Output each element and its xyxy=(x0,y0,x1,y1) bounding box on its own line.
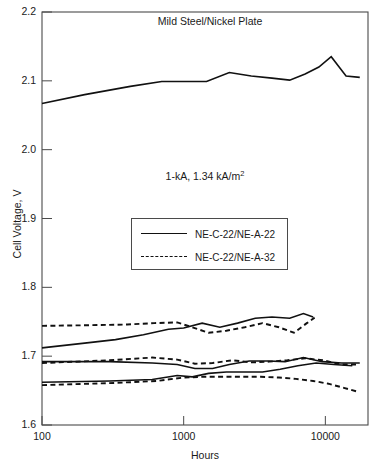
x-tick-label: 10000 xyxy=(295,430,355,442)
y-tick-label: 2.0 xyxy=(2,143,36,155)
legend-line-solid-icon xyxy=(141,229,187,239)
series-top-cell-voltage xyxy=(42,57,360,104)
legend-item-0: NE-C-22/NE-A-22 xyxy=(132,223,289,245)
chart-title: Mild Steel/Nickel Plate xyxy=(105,15,315,27)
current-density-annotation: 1-kA, 1.34 kA/m2 xyxy=(120,170,290,182)
legend: NE-C-22/NE-A-22 NE-C-22/NE-A-32 xyxy=(131,218,288,270)
annotation-superscript: 2 xyxy=(240,169,244,178)
x-tick-label: 100 xyxy=(12,430,72,442)
y-tick-label: 1.6 xyxy=(2,418,36,430)
annotation-text: 1-kA, 1.34 kA/m xyxy=(166,170,241,182)
legend-label-0: NE-C-22/NE-A-22 xyxy=(195,229,275,240)
legend-line-dashed-icon xyxy=(141,252,187,262)
series-band-a-solid xyxy=(42,313,313,347)
chart-figure: Mild Steel/Nickel Plate 1-kA, 1.34 kA/m2… xyxy=(0,0,382,468)
series-band-a-dashed xyxy=(42,318,315,333)
x-axis-title: Hours xyxy=(42,449,368,461)
series-band-c-dashed xyxy=(42,377,356,391)
y-tick-label: 1.7 xyxy=(2,349,36,361)
y-tick-label: 1.9 xyxy=(2,212,36,224)
legend-label-1: NE-C-22/NE-A-32 xyxy=(195,252,275,263)
y-tick-label: 2.2 xyxy=(2,5,36,17)
legend-item-1: NE-C-22/NE-A-32 xyxy=(132,246,289,268)
x-tick-label: 1000 xyxy=(154,430,214,442)
y-tick-label: 2.1 xyxy=(2,74,36,86)
y-axis-title: Cell Voltage, V xyxy=(11,159,23,289)
y-tick-label: 1.8 xyxy=(2,280,36,292)
